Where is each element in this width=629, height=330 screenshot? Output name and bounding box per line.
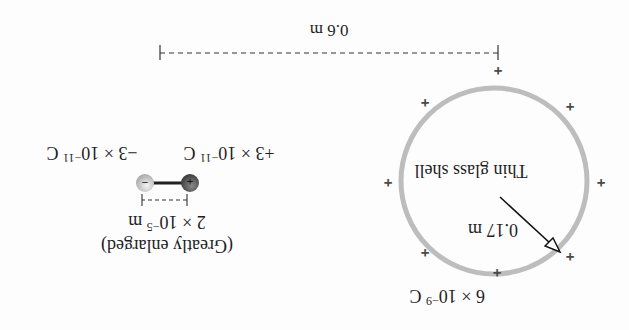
- separation-dimension: 0.6 m: [160, 21, 498, 60]
- positive-charge-label: +3 × 10−11 C: [183, 143, 274, 165]
- plus-icon: +: [420, 245, 429, 262]
- minus-icon: −: [142, 177, 148, 189]
- shell-label: Thin glass shell: [415, 161, 528, 181]
- plus-icon: +: [565, 249, 574, 266]
- plus-icon: +: [187, 176, 193, 188]
- radius-label: 0.17 m: [468, 220, 518, 240]
- rotated-diagram-group: + + + + + + + + Thin glass shell 0.17 m: [46, 21, 605, 308]
- plus-icon: +: [383, 175, 392, 192]
- negative-charge-label: −3 × 10−11 C: [46, 143, 137, 165]
- diagram-svg: + + + + + + + + Thin glass shell 0.17 m: [0, 0, 629, 330]
- shell-charge-label: 6 × 10−9 C: [410, 286, 485, 308]
- dipole-length-dimension: [142, 194, 187, 206]
- plus-icon: +: [420, 95, 429, 112]
- plus-icon: +: [565, 99, 574, 116]
- separation-label: 0.6 m: [310, 21, 349, 40]
- diagram-canvas: + + + + + + + + Thin glass shell 0.17 m: [0, 0, 629, 330]
- glass-shell: + + + + + + + + Thin glass shell 0.17 m: [383, 63, 605, 308]
- dipole: + − +3 × 10−11 C −3 × 10−11 C 2 × 10−5 m…: [46, 143, 274, 256]
- dipole-length-label: 2 × 10−5 m: [128, 212, 205, 234]
- plus-icon: +: [493, 63, 502, 80]
- enlarged-note: (Greatly enlarged): [101, 235, 233, 256]
- plus-icon: +: [596, 175, 605, 192]
- plus-icon: +: [492, 265, 501, 282]
